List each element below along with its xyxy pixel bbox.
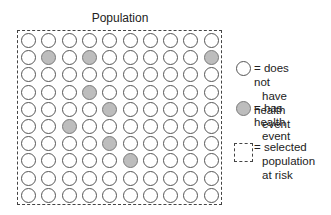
empty-circle-icon [102,188,117,203]
empty-circle-icon [163,33,178,48]
empty-circle-icon [204,67,219,82]
empty-circle-icon [82,171,97,186]
empty-circle-icon [163,171,178,186]
empty-circle-icon [21,171,36,186]
legend-line: at risk [254,169,293,181]
dashed-square-icon [234,143,253,162]
empty-circle-icon [204,33,219,48]
filled-circle-icon [102,102,117,117]
legend-line: = selected [254,141,307,153]
empty-circle-icon [143,102,158,117]
empty-circle-icon [41,171,56,186]
empty-circle-icon [21,119,36,134]
empty-circle-icon [123,50,138,65]
empty-circle-icon [143,85,158,100]
empty-circle-icon [62,171,77,186]
empty-circle-icon [143,50,158,65]
filled-circle-icon [82,50,97,65]
empty-circle-icon [102,85,117,100]
empty-circle-icon [82,102,97,117]
empty-circle-icon [163,188,178,203]
empty-circle-icon [62,102,77,117]
empty-circle-icon [123,188,138,203]
empty-circle-icon [62,153,77,168]
empty-circle-icon [123,171,138,186]
legend-label-population-at-risk: = selected population at risk [254,140,315,182]
filled-circle-icon [123,153,138,168]
empty-circle-icon [143,171,158,186]
filled-circle-icon [82,85,97,100]
empty-circle-icon [41,102,56,117]
empty-circle-icon [183,85,198,100]
empty-circle-icon [204,102,219,117]
empty-circle-icon [163,102,178,117]
empty-circle-icon [82,136,97,151]
empty-circle-icon [204,85,219,100]
legend-line: = has health [254,102,285,128]
empty-circle-icon [62,188,77,203]
empty-circle-icon [123,85,138,100]
empty-circle-icon [62,67,77,82]
filled-circle-icon [62,119,77,134]
empty-circle-icon [21,102,36,117]
empty-circle-icon [82,188,97,203]
legend-label-has-event: = has health event [254,101,290,143]
empty-circle-icon [21,188,36,203]
empty-circle-icon [62,136,77,151]
empty-circle-icon [183,171,198,186]
empty-circle-icon [123,136,138,151]
empty-circle-icon [41,85,56,100]
empty-circle-icon [21,85,36,100]
empty-circle-icon [143,119,158,134]
empty-circle-icon [143,136,158,151]
filled-circle-icon [236,101,251,116]
empty-circle-icon [123,67,138,82]
empty-circle-icon [123,119,138,134]
empty-circle-icon [204,171,219,186]
empty-circle-icon [82,33,97,48]
empty-circle-icon [21,33,36,48]
empty-circle-icon [123,33,138,48]
empty-circle-icon [123,102,138,117]
empty-circle-icon [41,188,56,203]
legend-line: = does not [254,62,289,88]
empty-circle-icon [204,153,219,168]
empty-circle-icon [82,119,97,134]
diagram-title: Population [0,11,240,25]
empty-circle-icon [163,119,178,134]
empty-circle-icon [102,171,117,186]
empty-circle-icon [204,188,219,203]
empty-circle-icon [236,61,251,76]
empty-circle-icon [204,119,219,134]
empty-circle-icon [62,50,77,65]
empty-circle-icon [163,85,178,100]
empty-circle-icon [62,85,77,100]
empty-circle-icon [62,33,77,48]
empty-circle-icon [143,33,158,48]
legend-line: population [254,155,315,167]
empty-circle-icon [204,136,219,151]
filled-circle-icon [204,50,219,65]
empty-circle-icon [143,188,158,203]
